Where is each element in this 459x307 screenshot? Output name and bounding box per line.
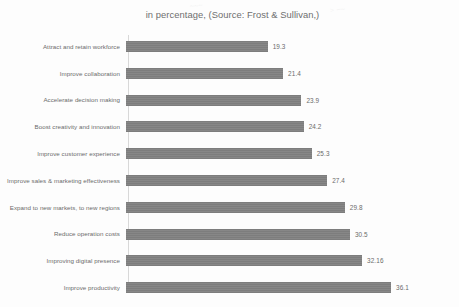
bar <box>126 41 268 52</box>
bar <box>126 95 301 106</box>
bar-row: Improve collaboration21.4 <box>0 60 459 87</box>
bar-track: 29.8 <box>126 194 459 221</box>
bar-value-label: 27.4 <box>332 177 345 184</box>
bar-row: Improving digital presence32.16 <box>0 247 459 274</box>
bar-chart: ~~~ > ~~ in percentage, (Source: Frost &… <box>0 0 459 307</box>
bar-row: Reduce operation costs30.5 <box>0 221 459 248</box>
category-label: Boost creativity and innovation <box>0 123 126 131</box>
category-label: Improve sales & marketing effectiveness <box>0 177 126 185</box>
bar <box>126 255 362 266</box>
bar-value-label: 36.1 <box>396 284 409 291</box>
bar-value-label: 25.3 <box>317 150 330 157</box>
bar-track: 19.3 <box>126 33 459 60</box>
bar-track: 32.16 <box>126 247 459 274</box>
bar-row: Boost creativity and innovation24.2 <box>0 113 459 140</box>
bar-track: 30.5 <box>126 221 459 248</box>
category-label: Reduce operation costs <box>0 230 126 238</box>
bar-value-label: 23.9 <box>306 97 319 104</box>
bar-row: Accelerate decision making23.9 <box>0 87 459 114</box>
bar <box>126 121 304 132</box>
bar-value-label: 30.5 <box>355 231 368 238</box>
bar-row: Improve customer experience25.3 <box>0 140 459 167</box>
bar-track: 23.9 <box>126 87 459 114</box>
bar <box>126 68 283 79</box>
bar-value-label: 21.4 <box>288 70 301 77</box>
bar-value-label: 24.2 <box>309 123 322 130</box>
plot-area: Attract and retain workforce19.3Improve … <box>0 33 459 301</box>
bar <box>126 282 391 293</box>
bar-track: 24.2 <box>126 113 459 140</box>
category-label: Attract and retain workforce <box>0 43 126 51</box>
category-label: Improving digital presence <box>0 257 126 265</box>
bar-row: Improve productivity36.1 <box>0 274 459 301</box>
bar-track: 21.4 <box>126 60 459 87</box>
category-label: Improve collaboration <box>0 70 126 78</box>
bar <box>126 229 350 240</box>
category-label: Accelerate decision making <box>0 96 126 104</box>
bar-track: 25.3 <box>126 140 459 167</box>
bar-value-label: 19.3 <box>273 43 286 50</box>
bar <box>126 202 345 213</box>
bar-row: Expand to new markets, to new regions29.… <box>0 194 459 221</box>
bar-value-label: 32.16 <box>367 257 384 264</box>
category-label: Expand to new markets, to new regions <box>0 204 126 212</box>
bar-row: Attract and retain workforce19.3 <box>0 33 459 60</box>
chart-title: in percentage, (Source: Frost & Sullivan… <box>0 9 459 20</box>
category-label: Improve customer experience <box>0 150 126 158</box>
bar-row: Improve sales & marketing effectiveness2… <box>0 167 459 194</box>
bar <box>126 148 312 159</box>
bar-track: 27.4 <box>126 167 459 194</box>
bar <box>126 175 327 186</box>
bar-track: 36.1 <box>126 274 459 301</box>
bar-value-label: 29.8 <box>350 204 363 211</box>
category-label: Improve productivity <box>0 284 126 292</box>
